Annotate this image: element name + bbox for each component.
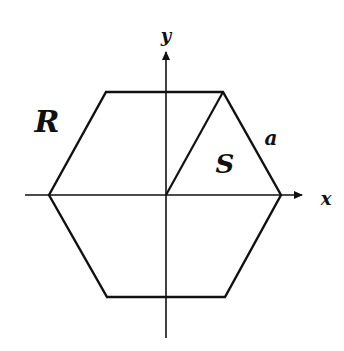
hexagon-diagram: y x R S a [0,0,344,351]
side-a-label: a [265,128,278,148]
region-S-label: S [216,151,235,177]
region-R-label: R [35,107,60,137]
y-axis-label: y [161,27,171,45]
diagram-canvas [0,0,344,351]
x-axis-label: x [321,190,332,208]
triangle-S-edge [166,92,223,195]
